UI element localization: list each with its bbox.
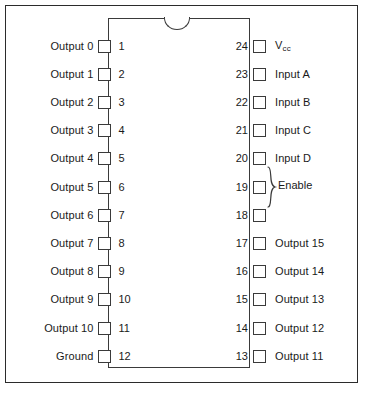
pin-pad[interactable] (253, 181, 266, 194)
pin-row: Output 1011 (10, 319, 140, 337)
pin-pad[interactable] (253, 293, 266, 306)
pin-row: Output 23 (10, 93, 140, 111)
pin-number: 15 (228, 294, 253, 305)
pin-label: Output 0 (10, 41, 98, 52)
pin-label: Input A (266, 69, 310, 80)
pin-pad[interactable] (253, 209, 266, 222)
pin-pad[interactable] (98, 322, 111, 335)
pin-row: 14Output 12 (228, 319, 363, 337)
pin-row: 24Vcc (228, 37, 363, 55)
pin-label: Output 12 (266, 323, 324, 334)
pin-label: Output 3 (10, 125, 98, 136)
pin-row: Output 78 (10, 234, 140, 252)
pin-label: Output 5 (10, 182, 98, 193)
pin-pad[interactable] (98, 181, 111, 194)
pin-label: Output 1 (10, 69, 98, 80)
pin-row: 23Input A (228, 65, 363, 83)
pin-pad[interactable] (98, 293, 111, 306)
pin-number: 14 (228, 323, 253, 334)
pin-row: Output 67 (10, 206, 140, 224)
pin-number: 22 (228, 97, 253, 108)
pin-label: Input C (266, 125, 311, 136)
pin-number: 11 (111, 323, 140, 334)
pin-pad[interactable] (98, 68, 111, 81)
pin-pad[interactable] (253, 322, 266, 335)
pin-number: 13 (228, 351, 253, 362)
pin-label: Output 15 (266, 238, 324, 249)
pin-row: 15Output 13 (228, 291, 363, 309)
pin-label: Output 10 (10, 323, 98, 334)
pin-pad[interactable] (253, 265, 266, 278)
pin-row: Ground12 (10, 347, 140, 365)
ic-pinout-figure: Output 01Output 12Output 23Output 34Outp… (0, 0, 368, 396)
pin-row: Output 45 (10, 150, 140, 168)
pin-label-subscript: cc (282, 44, 290, 53)
pin-pad[interactable] (253, 237, 266, 250)
pin-label: Input B (266, 97, 311, 108)
pin-number: 2 (111, 69, 140, 80)
pin-row: Output 12 (10, 65, 140, 83)
pin-pad[interactable] (253, 68, 266, 81)
pin-pad[interactable] (253, 124, 266, 137)
pin-pad[interactable] (98, 209, 111, 222)
pin-pad[interactable] (253, 96, 266, 109)
pin-label: Output 4 (10, 153, 98, 164)
pin-number: 16 (228, 266, 253, 277)
pin-number: 21 (228, 125, 253, 136)
pin-row: Output 01 (10, 37, 140, 55)
pin-number: 9 (111, 266, 140, 277)
pin-number: 4 (111, 125, 140, 136)
pin-label: Output 2 (10, 97, 98, 108)
pin-pad[interactable] (98, 265, 111, 278)
pin-row: Output 910 (10, 291, 140, 309)
pin-label: Output 9 (10, 294, 98, 305)
pin-row: 18 (228, 206, 363, 224)
pin-number: 24 (228, 41, 253, 52)
pin-label: Input D (266, 153, 311, 164)
pin-row: 22Input B (228, 93, 363, 111)
pin-pad[interactable] (253, 152, 266, 165)
pin-row: 16Output 14 (228, 263, 363, 281)
pin-row: 21Input C (228, 122, 363, 140)
pin-pad[interactable] (98, 96, 111, 109)
pin-row: Output 34 (10, 122, 140, 140)
package-notch-cap (165, 16, 189, 19)
pin-label: Output 11 (266, 351, 323, 362)
pin-row: 13Output 11 (228, 347, 363, 365)
pin-pad[interactable] (98, 350, 111, 363)
pin-number: 10 (111, 294, 140, 305)
pin-row: Output 89 (10, 263, 140, 281)
pin-label: Ground (10, 351, 98, 362)
pin-label: Output 14 (266, 266, 324, 277)
pin-number: 19 (228, 182, 253, 193)
pin-number: 12 (111, 351, 140, 362)
pin-pad[interactable] (98, 152, 111, 165)
pin-pad[interactable] (98, 237, 111, 250)
pin-pad[interactable] (253, 40, 266, 53)
enable-group: Enable (266, 166, 361, 208)
pin-row: 17Output 15 (228, 234, 363, 252)
pin-number: 3 (111, 97, 140, 108)
pin-number: 7 (111, 210, 140, 221)
pin-number: 5 (111, 153, 140, 164)
pin-number: 8 (111, 238, 140, 249)
enable-label: Enable (278, 180, 312, 191)
pin-label: Output 7 (10, 238, 98, 249)
pin-number: 6 (111, 182, 140, 193)
pin-label: Output 13 (266, 294, 324, 305)
pin-pad[interactable] (253, 350, 266, 363)
pin-row: Output 56 (10, 178, 140, 196)
pin-number: 17 (228, 238, 253, 249)
pin-number: 23 (228, 69, 253, 80)
pin-number: 18 (228, 210, 253, 221)
pin-label: Vcc (266, 40, 291, 52)
pin-number: 1 (111, 41, 140, 52)
pin-label: Output 8 (10, 266, 98, 277)
pin-pad[interactable] (98, 40, 111, 53)
pin-pad[interactable] (98, 124, 111, 137)
pin-label: Output 6 (10, 210, 98, 221)
pin-number: 20 (228, 153, 253, 164)
